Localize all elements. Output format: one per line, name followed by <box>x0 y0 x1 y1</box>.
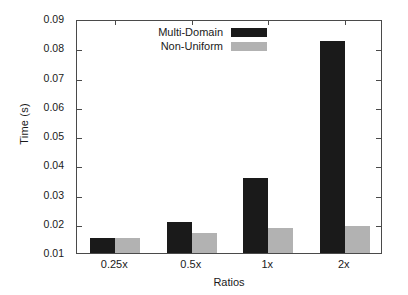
bar-0.5x-multi-domain <box>167 222 192 253</box>
y-tick-label: 0.05 <box>14 131 64 142</box>
y-tick-label: 0.02 <box>14 219 64 230</box>
x-axis-tick-labels: 0.25x0.5x1x2x <box>76 258 382 274</box>
bar-0.5x-non-uniform <box>192 233 217 253</box>
y-tick-label: 0.09 <box>14 14 64 25</box>
bar-0.25x-non-uniform <box>115 238 140 253</box>
y-axis-tick-labels: 0.090.080.070.060.050.040.030.020.01 <box>14 0 64 295</box>
x-tick-label: 2x <box>309 258 379 270</box>
legend: Multi-Domain Non-Uniform <box>97 25 267 53</box>
bar-1x-multi-domain <box>243 178 268 253</box>
x-axis-title: Ratios <box>76 276 382 288</box>
y-tick-label: 0.06 <box>14 102 64 113</box>
bar-1x-non-uniform <box>268 228 293 253</box>
x-tick-label: 0.25x <box>79 258 149 270</box>
legend-label-non-uniform: Non-Uniform <box>161 40 223 52</box>
y-tick-label: 0.07 <box>14 73 64 84</box>
x-tick-label: 1x <box>232 258 302 270</box>
legend-swatch-multi-domain <box>231 28 267 37</box>
legend-entry: Multi-Domain <box>97 25 267 39</box>
plot-area: Multi-Domain Non-Uniform <box>76 20 382 254</box>
y-tick-label: 0.03 <box>14 190 64 201</box>
bars-layer <box>77 21 381 253</box>
y-tick-label: 0.01 <box>14 248 64 259</box>
legend-label-multi-domain: Multi-Domain <box>158 26 223 38</box>
legend-swatch-non-uniform <box>231 42 267 51</box>
y-tick-label: 0.04 <box>14 160 64 171</box>
y-tick-label: 0.08 <box>14 43 64 54</box>
bar-2x-non-uniform <box>345 226 370 253</box>
bar-0.25x-multi-domain <box>90 238 115 253</box>
bar-chart-figure: Time (s) 0.090.080.070.060.050.040.030.0… <box>0 0 408 295</box>
x-tick-label: 0.5x <box>156 258 226 270</box>
bar-2x-multi-domain <box>320 41 345 253</box>
legend-entry: Non-Uniform <box>97 39 267 53</box>
